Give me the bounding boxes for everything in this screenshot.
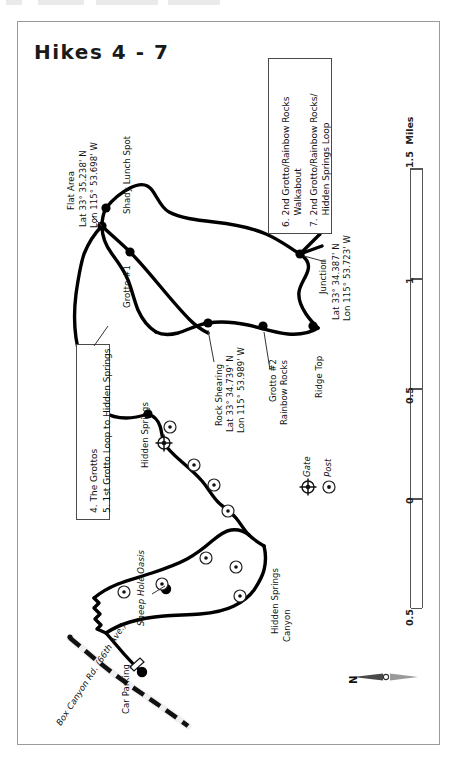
- label-rock-shearing-lat: Lat 33° 34.739' N: [225, 355, 237, 432]
- scale-tick-1_5: 1.5 Miles: [404, 116, 415, 168]
- label-sheep-hole-oasis: Sheep Hole Oasis: [136, 550, 148, 626]
- label-junction-lat: Lat 33° 34.387' N: [331, 243, 343, 320]
- leader-rock-shearing: [204, 328, 226, 368]
- gate-icon: [300, 479, 317, 496]
- legend-label-post: Post: [323, 459, 335, 478]
- scale-tick-0_5-lower: 0.5: [404, 609, 415, 626]
- leader-sheep-hole-oasis: [148, 574, 178, 600]
- label-hidden-springs: Hidden Springs: [140, 402, 152, 468]
- legend-box-rainbow-rocks: 6. 2nd Grotto/Rainbow Rocks Walkabout 7.…: [268, 58, 332, 234]
- scale-tick-0_5-upper: 0.5: [404, 387, 415, 404]
- waypoint-dot-ridge-top: [308, 321, 317, 330]
- label-ridge-top: Ridge Top: [314, 356, 326, 398]
- legend-rr-line-3: 7. 2nd Grotto/Rainbow Rocks/: [308, 94, 320, 227]
- legend-box-grottos: 4. The Grottos 5. 1st Grotto Loop to Hid…: [76, 344, 110, 520]
- label-flat-area-lat: Lat 33° 35.238' N: [78, 150, 90, 227]
- label-hidden-springs-canyon-sub: Canyon: [282, 609, 294, 642]
- leader-legend-grottos: [90, 324, 116, 354]
- clipped-top-strip: [0, 0, 455, 16]
- leader-grotto-2: [258, 330, 280, 376]
- label-flat-area: Flat Area: [66, 171, 78, 210]
- label-grotto-1: Grotto #1: [122, 265, 134, 308]
- label-grotto-2-sub: Rainbow Rocks: [279, 360, 291, 425]
- label-rock-shearing-lon: Lon 115° 53.989' W: [236, 347, 248, 433]
- scale-tick-1: 1: [404, 277, 415, 284]
- legend-rr-line-2: Walkabout: [292, 168, 304, 227]
- waypoint-dot-car-parking: [137, 667, 147, 677]
- legend-rr-line-1: 6. 2nd Grotto/Rainbow Rocks: [280, 97, 292, 227]
- north-arrow-icon: [353, 674, 418, 681]
- leader-junction: [302, 250, 332, 268]
- label-junction-lon: Lon 115° 53.723' W: [342, 235, 354, 321]
- label-shady-lunch-spot: Shady Lunch Spot: [122, 136, 134, 214]
- map-page: Hikes 4 - 7: [0, 0, 455, 763]
- legend-grottos-line-2: 5. 1st Grotto Loop to Hidden Springs: [101, 348, 113, 513]
- scale-tick-0: 0: [404, 497, 415, 504]
- gate-marker: [156, 435, 173, 452]
- label-hidden-springs-canyon: Hidden Springs: [270, 568, 282, 634]
- label-rock-shearing: Rock Shearing: [214, 364, 226, 426]
- legend-rr-line-4: Hidden Springs Loop: [320, 123, 332, 227]
- post-icon: [323, 481, 335, 493]
- label-car-parking: Car Parking: [121, 664, 133, 714]
- legend-label-gate: Gate: [302, 456, 314, 477]
- map-frame: Hikes 4 - 7: [17, 21, 440, 745]
- waypoint-dot-shady-lunch-spot: [101, 203, 110, 212]
- leader-flat-area: [90, 214, 120, 238]
- north-arrow-label: N: [348, 676, 360, 684]
- waypoint-dot-rock-shearing: [203, 318, 212, 327]
- waypoint-dot-grotto-1: [125, 247, 134, 256]
- legend-grottos-line-1: 4. The Grottos: [88, 449, 100, 513]
